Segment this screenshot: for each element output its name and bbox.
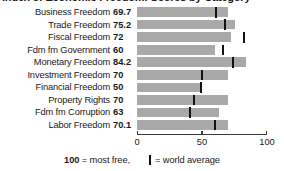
world-average-tick (215, 7, 217, 18)
bar-track (137, 7, 267, 17)
bar-track (137, 108, 267, 118)
category-label: Trade Freedom (0, 19, 110, 31)
category-value: 50 (113, 81, 135, 93)
category-value: 70 (113, 94, 135, 106)
x-axis-tick-label: 0 (122, 137, 152, 148)
category-label: Labor Freedom (0, 119, 110, 131)
legend-most-free: 100 = most free, (64, 155, 130, 165)
chart-row: Property Rights70 (0, 94, 284, 106)
world-average-tick (193, 95, 195, 106)
category-label: Investment Freedom (0, 69, 110, 81)
legend-most-free-text: = most free, (79, 155, 130, 165)
chart-legend: 100 = most free, = world average (0, 152, 284, 168)
value-bar (137, 7, 228, 17)
bar-chart: Business Freedom69.7Trade Freedom75.2Fis… (0, 6, 284, 136)
category-label: Property Rights (0, 94, 110, 106)
x-axis-tick-50 (201, 131, 202, 135)
x-axis-tick-label: 100 (252, 137, 282, 148)
category-label: Business Freedom (0, 6, 110, 18)
x-axis-tick-100 (266, 131, 267, 135)
category-label: Financial Freedom (0, 81, 110, 93)
category-value: 72 (113, 31, 135, 43)
value-bar (137, 95, 228, 105)
legend-world-average: = world average (149, 155, 220, 165)
world-average-tick-icon (149, 155, 151, 165)
world-average-tick (243, 32, 245, 43)
chart-row: Fdm fm Corruption63 (0, 106, 284, 118)
category-label: Fdm fm Corruption (0, 106, 110, 118)
bar-track (137, 70, 267, 80)
category-label: Monetary Freedom (0, 56, 110, 68)
world-average-tick (200, 82, 202, 93)
page-title: Index of Economic Freedom: Scores by Cat… (2, 0, 250, 3)
category-value: 69.7 (113, 6, 135, 18)
value-bar (137, 108, 219, 118)
category-label: Fiscal Freedom (0, 31, 110, 43)
x-axis-tick-label: 50 (187, 137, 217, 148)
chart-row: Monetary Freedom84.2 (0, 56, 284, 68)
value-bar (137, 45, 215, 55)
legend-world-average-text: = world average (155, 155, 220, 165)
bar-track (137, 95, 267, 105)
world-average-tick (189, 107, 191, 118)
bar-track (137, 120, 267, 130)
chart-row: Fdm fm Government60 (0, 44, 284, 56)
chart-row: Business Freedom69.7 (0, 6, 284, 18)
category-value: 70 (113, 69, 135, 81)
world-average-tick (214, 120, 216, 131)
value-bar (137, 32, 231, 42)
chart-row: Trade Freedom75.2 (0, 19, 284, 31)
chart-row: Investment Freedom70 (0, 69, 284, 81)
category-label: Fdm fm Government (0, 44, 110, 56)
x-axis-line (137, 134, 267, 135)
bar-track (137, 20, 267, 30)
x-axis-tick-0 (137, 131, 138, 135)
value-bar (137, 20, 235, 30)
category-value: 84.2 (113, 56, 135, 68)
value-bar (137, 83, 202, 93)
chart-row: Financial Freedom50 (0, 81, 284, 93)
chart-row: Labor Freedom70.1 (0, 119, 284, 131)
bar-track (137, 57, 267, 67)
chart-title-strip: Index of Economic Freedom: Scores by Cat… (0, 0, 284, 5)
world-average-tick (201, 70, 203, 81)
category-value: 60 (113, 44, 135, 56)
world-average-tick (222, 45, 224, 56)
value-bar (137, 57, 246, 67)
legend-most-free-number: 100 (64, 155, 79, 165)
category-value: 63 (113, 106, 135, 118)
world-average-tick (232, 57, 234, 68)
bar-track (137, 45, 267, 55)
chart-row: Fiscal Freedom72 (0, 31, 284, 43)
category-value: 75.2 (113, 19, 135, 31)
bar-track (137, 83, 267, 93)
bar-track (137, 32, 267, 42)
value-bar (137, 70, 228, 80)
category-value: 70.1 (113, 119, 135, 131)
world-average-tick (224, 19, 226, 30)
